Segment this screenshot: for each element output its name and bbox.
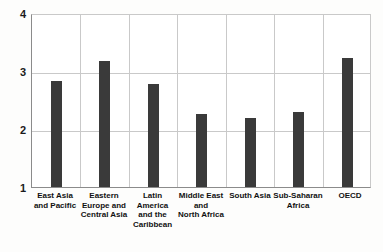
bars-layer (32, 15, 370, 187)
x-category-label-oecd: OECD (321, 191, 379, 201)
bar-middle-east-and-north-africa (196, 114, 207, 187)
bar-east-asia-and-pacific (51, 81, 62, 187)
x-axis: East Asiaand Pacific EasternEurope andCe… (31, 191, 371, 249)
bar-sub-saharan-africa (293, 112, 304, 187)
bar-chart-figure: 4 3 2 1 East Asiaand Pacific EasternEuro… (0, 0, 383, 252)
y-tick-label-3: 3 (8, 67, 26, 78)
y-axis: 4 3 2 1 (8, 0, 26, 252)
plot-area (31, 14, 371, 188)
bar-eastern-europe-and-central-asia (99, 61, 110, 187)
y-tick-label-4: 4 (8, 9, 26, 20)
bar-oecd (342, 58, 353, 187)
bar-south-asia (245, 118, 256, 187)
y-tick-label-1: 1 (8, 183, 26, 194)
bar-latin-america-and-the-caribbean (148, 84, 159, 187)
y-tick-label-2: 2 (8, 125, 26, 136)
